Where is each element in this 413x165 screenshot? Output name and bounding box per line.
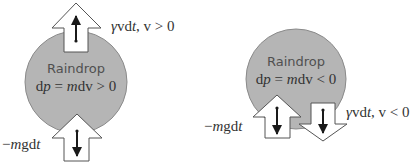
right-gravity-label: −mgdt (204, 118, 243, 134)
left-drag-label: γvdt, v > 0 (111, 18, 175, 34)
left-title: Raindrop (47, 61, 105, 76)
left-gravity-label: −mgdt (2, 136, 41, 152)
right-drag-label: γvdt, v < 0 (346, 104, 410, 120)
right-equation: dp = mdv < 0 (256, 71, 336, 87)
left-figure: Raindrop dp = mdv > 0 γvdt, v > 0 −mgdt (2, 3, 175, 161)
left-equation: dp = mdv > 0 (36, 78, 116, 94)
right-title: Raindrop (267, 54, 325, 69)
raindrop-momentum-diagram: Raindrop dp = mdv > 0 γvdt, v > 0 −mgdt … (0, 0, 413, 165)
right-figure: Raindrop dp = mdv < 0 γvdt, v < 0 −mgdt (204, 29, 410, 141)
